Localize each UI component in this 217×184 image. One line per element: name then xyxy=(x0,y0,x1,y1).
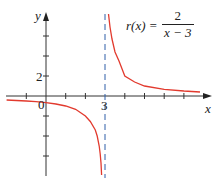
x-axis-arrow-icon xyxy=(203,93,212,99)
function-fraction: 2 x − 3 xyxy=(162,8,194,41)
y-axis-arrow-icon xyxy=(43,12,49,21)
y-tick-label-2: 2 xyxy=(36,70,43,83)
fraction-numerator: 2 xyxy=(162,8,194,25)
y-axis-label: y xyxy=(35,9,41,22)
x-axis-label: x xyxy=(205,102,211,115)
function-label: r(x) = xyxy=(126,19,158,32)
fraction-denominator: x − 3 xyxy=(162,25,194,41)
x-tick-label-0: 0 xyxy=(38,98,45,111)
curve-left-branch xyxy=(7,100,102,175)
x-tick-label-3: 3 xyxy=(101,99,108,112)
rational-function-graph: y x 2 0 3 r(x) = 2 x − 3 xyxy=(0,0,217,184)
